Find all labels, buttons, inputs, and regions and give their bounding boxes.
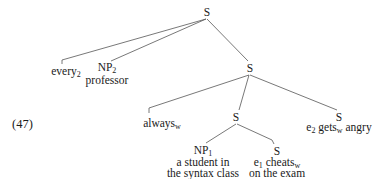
branch-root-np2 xyxy=(111,19,206,61)
syntax-tree: (47) S every2 NP2 professor S alwaysw S … xyxy=(0,0,377,179)
np1-line2: the syntax class xyxy=(167,168,239,179)
example-number: (47) xyxy=(12,117,33,132)
np2-word: professor xyxy=(86,75,129,86)
node-s2: S xyxy=(247,63,253,74)
node-s3: S xyxy=(233,112,239,123)
s-cheats-line2: on the exam xyxy=(249,168,305,179)
branch-s2-s3 xyxy=(239,75,249,110)
tree-branches xyxy=(0,0,377,179)
branch-s3-np1 xyxy=(206,124,236,143)
branch-s2-sgets xyxy=(250,75,337,110)
node-every: every2 xyxy=(51,66,81,77)
node-root-s: S xyxy=(204,7,210,18)
branch-s2-always xyxy=(149,75,249,113)
branch-root-every xyxy=(62,19,206,64)
branch-root-s2 xyxy=(207,19,248,61)
node-np2: NP2 xyxy=(98,62,117,73)
s-gets-text: e2 getsw angry xyxy=(306,122,371,133)
node-np1: NP1 xyxy=(194,145,213,156)
node-always: alwaysw xyxy=(143,118,181,129)
branch-s3-scheats xyxy=(237,124,274,144)
